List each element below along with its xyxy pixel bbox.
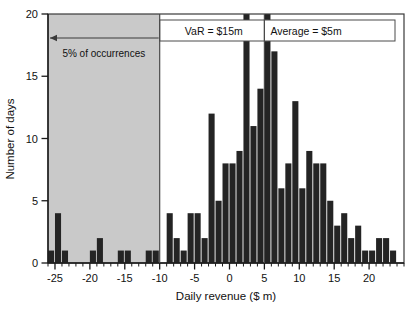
x-tick-label: -10: [152, 272, 168, 284]
x-tick-label: 5: [261, 272, 267, 284]
histogram-bar: [181, 251, 187, 263]
x-axis-title: Daily revenue ($ m): [176, 290, 277, 302]
x-tick-label: 15: [328, 272, 340, 284]
histogram-bar: [48, 251, 54, 263]
histogram-bar: [369, 251, 375, 263]
histogram-bar: [355, 226, 361, 263]
x-tick-label: -5: [190, 272, 200, 284]
histogram-bar: [243, 14, 249, 263]
histogram-bar: [195, 213, 201, 263]
histogram-bar: [174, 238, 180, 263]
histogram-bar: [202, 238, 208, 263]
histogram-bar: [153, 251, 159, 263]
average-annotation-label: Average = $5m: [270, 25, 342, 37]
histogram-bar: [90, 251, 96, 263]
histogram-bar: [146, 251, 152, 263]
histogram-bar: [250, 126, 256, 263]
histogram-bar: [271, 51, 277, 263]
histogram-chart: -25-20-15-10-505101520 05101520 5% of oc…: [0, 0, 420, 311]
y-tick-label: 20: [26, 8, 38, 20]
x-tick-label: -20: [82, 272, 98, 284]
histogram-bar: [216, 201, 222, 263]
y-tick-label: 5: [32, 195, 38, 207]
histogram-bar: [376, 238, 382, 263]
x-tick-label: 10: [293, 272, 305, 284]
histogram-bar: [306, 151, 312, 263]
histogram-bar: [167, 213, 173, 263]
y-tick-label: 0: [32, 257, 38, 269]
y-axis-title: Number of days: [4, 98, 16, 179]
histogram-bar: [278, 188, 284, 263]
x-tick-label: 20: [363, 272, 375, 284]
histogram-bar: [257, 89, 263, 263]
histogram-bar: [118, 251, 124, 263]
histogram-bar: [229, 163, 235, 263]
x-tick-label: 0: [226, 272, 232, 284]
x-tick-label: -25: [47, 272, 63, 284]
y-tick-label: 10: [26, 133, 38, 145]
histogram-bar: [327, 201, 333, 263]
histogram-bar: [264, 14, 270, 263]
histogram-bar: [236, 151, 242, 263]
histogram-bar: [125, 251, 131, 263]
histogram-bar: [320, 163, 326, 263]
histogram-bar: [313, 163, 319, 263]
histogram-bar: [55, 213, 61, 263]
histogram-bar: [383, 238, 389, 263]
x-tick-label: -15: [117, 272, 133, 284]
histogram-bar: [334, 226, 340, 263]
var-annotation-label: VaR = $15m: [185, 25, 243, 37]
histogram-bar: [62, 251, 68, 263]
histogram-bar: [341, 213, 347, 263]
histogram-bar: [209, 114, 215, 263]
histogram-bar: [188, 213, 194, 263]
histogram-bar: [299, 188, 305, 263]
histogram-bar: [223, 163, 229, 263]
y-tick-label: 15: [26, 70, 38, 82]
histogram-bar: [348, 238, 354, 263]
histogram-bar: [292, 101, 298, 263]
histogram-bar: [97, 238, 103, 263]
chart-figure: -25-20-15-10-505101520 05101520 5% of oc…: [0, 0, 420, 311]
histogram-bar: [390, 251, 396, 263]
histogram-bar: [362, 251, 368, 263]
histogram-bar: [285, 163, 291, 263]
shaded-region-label: 5% of occurrences: [62, 48, 145, 59]
